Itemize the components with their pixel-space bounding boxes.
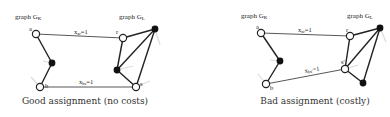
panel-bad-assignment: graph GK graph GL a b r s' xar=1 xbs'=1 … [241, 12, 386, 106]
node-r-label: r [116, 28, 119, 35]
node-s-prime-label: s' [341, 58, 345, 65]
node-k-solid [277, 58, 284, 65]
node-a [257, 29, 264, 36]
assignment-edge-a-r [261, 33, 350, 36]
node-l-top-solid [152, 26, 159, 33]
graph-k-title: graph GK [15, 13, 42, 21]
edge-label-bs: xbs=1 [79, 78, 93, 86]
node-s-prime [341, 65, 348, 72]
node-l-bottom-solid [360, 80, 367, 87]
caption-bad: Bad assignment (costly) [260, 96, 369, 106]
node-b [262, 80, 269, 87]
node-a-label: a [29, 25, 32, 32]
graph-k-edges [261, 33, 280, 84]
node-a [32, 30, 39, 37]
node-r [119, 34, 126, 41]
edge-label-ar: xar=1 [74, 28, 88, 36]
node-b-label: b [45, 82, 48, 89]
edge-label-ar: xar=1 [298, 26, 312, 34]
caption-good: Good assignment (no costs) [22, 96, 148, 106]
graph-l-title: graph GL [119, 13, 145, 21]
node-l-mid-solid [114, 67, 121, 74]
node-l-top-solid [377, 25, 384, 32]
edge-label-bs-prime: xbs'=1 [304, 64, 320, 74]
node-s-label: s [140, 80, 143, 87]
graph-k-edges [36, 34, 52, 87]
node-b [36, 83, 43, 90]
node-b-label: b [270, 84, 273, 91]
panel-good-assignment: graph GK graph GL a b r s xar=1 xbs=1 Go… [15, 13, 160, 106]
graph-k-title: graph GK [241, 12, 268, 20]
assignment-diagram: graph GK graph GL a b r s xar=1 xbs=1 Go… [0, 0, 390, 117]
node-s [132, 83, 139, 90]
graph-l-title: graph GL [347, 12, 373, 20]
node-k-solid [49, 60, 56, 67]
node-a-label: a [256, 23, 259, 30]
node-r-label: r [346, 26, 349, 33]
ghost-edges [31, 29, 160, 87]
node-r [346, 32, 353, 39]
